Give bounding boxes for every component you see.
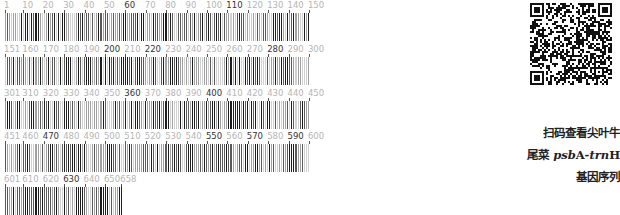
position-label: 610 bbox=[22, 174, 38, 184]
position-label: 90 bbox=[186, 0, 197, 10]
position-label: 450 bbox=[308, 88, 324, 98]
position-label: 140 bbox=[288, 0, 304, 10]
position-label: 30 bbox=[63, 0, 74, 10]
nucleotide-bars bbox=[5, 187, 123, 215]
position-label: 270 bbox=[247, 44, 263, 54]
position-label: 160 bbox=[22, 44, 38, 54]
position-label: 460 bbox=[22, 131, 38, 141]
position-label: 530 bbox=[165, 131, 181, 141]
position-label: 560 bbox=[226, 131, 242, 141]
position-label: 550 bbox=[206, 131, 222, 141]
nucleotide-bars bbox=[5, 101, 310, 129]
position-label: 350 bbox=[104, 88, 120, 98]
position-label: 1 bbox=[4, 0, 9, 10]
position-label: 290 bbox=[288, 44, 304, 54]
position-label: 200 bbox=[104, 44, 120, 54]
position-label: 580 bbox=[267, 131, 283, 141]
position-label: 40 bbox=[84, 0, 95, 10]
position-label: 280 bbox=[267, 44, 283, 54]
position-label: 110 bbox=[226, 0, 242, 10]
gene-name-part-1: psb bbox=[553, 148, 576, 162]
position-label: 60 bbox=[124, 0, 135, 10]
position-label: 301 bbox=[4, 88, 20, 98]
nucleotide-bars bbox=[5, 57, 310, 85]
caption-line-2: 尾菜 psbA-trnH bbox=[520, 148, 620, 162]
position-label: 451 bbox=[4, 131, 20, 141]
caption-line-3: 基因序列 bbox=[520, 170, 620, 184]
position-ruler: 1511601701801902002102202302402502602702… bbox=[0, 44, 320, 56]
position-ruler: 3013103203303403503603703803904004104204… bbox=[0, 88, 320, 100]
position-ruler: 601610620630640650658 bbox=[0, 174, 320, 186]
position-label: 230 bbox=[165, 44, 181, 54]
nucleotide-bar bbox=[308, 57, 310, 85]
position-label: 20 bbox=[43, 0, 54, 10]
position-label: 630 bbox=[63, 174, 79, 184]
position-label: 440 bbox=[288, 88, 304, 98]
position-label: 100 bbox=[206, 0, 222, 10]
position-label: 360 bbox=[124, 88, 140, 98]
position-label: 320 bbox=[43, 88, 59, 98]
position-label: 260 bbox=[226, 44, 242, 54]
caption-species-suffix: 尾菜 bbox=[527, 148, 553, 162]
position-label: 500 bbox=[104, 131, 120, 141]
nucleotide-bars bbox=[5, 13, 310, 41]
nucleotide-bar bbox=[308, 13, 310, 41]
position-label: 510 bbox=[124, 131, 140, 141]
position-label: 420 bbox=[247, 88, 263, 98]
position-label: 120 bbox=[247, 0, 263, 10]
position-label: 250 bbox=[206, 44, 222, 54]
position-label: 430 bbox=[267, 88, 283, 98]
position-label: 50 bbox=[104, 0, 115, 10]
position-label: 340 bbox=[84, 88, 100, 98]
nucleotide-bar bbox=[308, 144, 310, 172]
position-label: 590 bbox=[288, 131, 304, 141]
nucleotide-bar bbox=[308, 101, 310, 129]
position-label: 658 bbox=[120, 174, 136, 184]
position-label: 70 bbox=[145, 0, 156, 10]
position-label: 80 bbox=[165, 0, 176, 10]
position-label: 470 bbox=[43, 131, 59, 141]
qr-code[interactable] bbox=[530, 3, 612, 85]
position-label: 330 bbox=[63, 88, 79, 98]
gene-name-part-2: A- bbox=[576, 148, 590, 162]
position-label: 150 bbox=[308, 0, 324, 10]
position-label: 220 bbox=[145, 44, 161, 54]
position-label: 151 bbox=[4, 44, 20, 54]
position-label: 180 bbox=[63, 44, 79, 54]
gene-name-part-4: H bbox=[609, 148, 620, 162]
position-label: 650 bbox=[104, 174, 120, 184]
nucleotide-bars bbox=[5, 144, 310, 172]
position-label: 640 bbox=[84, 174, 100, 184]
position-label: 570 bbox=[247, 131, 263, 141]
position-label: 300 bbox=[308, 44, 324, 54]
position-label: 380 bbox=[165, 88, 181, 98]
position-label: 520 bbox=[145, 131, 161, 141]
position-ruler: 4514604704804905005105205305405505605705… bbox=[0, 131, 320, 143]
position-label: 540 bbox=[186, 131, 202, 141]
position-label: 410 bbox=[226, 88, 242, 98]
position-label: 390 bbox=[186, 88, 202, 98]
position-label: 310 bbox=[22, 88, 38, 98]
caption-line-1: 扫码查看尖叶牛 bbox=[520, 126, 620, 140]
position-label: 190 bbox=[84, 44, 100, 54]
nucleotide-bar bbox=[121, 187, 123, 215]
position-label: 210 bbox=[124, 44, 140, 54]
position-label: 170 bbox=[43, 44, 59, 54]
position-label: 400 bbox=[206, 88, 222, 98]
position-label: 370 bbox=[145, 88, 161, 98]
position-label: 130 bbox=[267, 0, 283, 10]
position-label: 240 bbox=[186, 44, 202, 54]
position-label: 10 bbox=[22, 0, 33, 10]
gene-name-part-3: trn bbox=[589, 148, 609, 162]
position-label: 480 bbox=[63, 131, 79, 141]
position-label: 490 bbox=[84, 131, 100, 141]
position-label: 620 bbox=[43, 174, 59, 184]
position-ruler: 1102030405060708090100110120130140150 bbox=[0, 0, 320, 12]
position-label: 600 bbox=[308, 131, 324, 141]
position-label: 601 bbox=[4, 174, 20, 184]
